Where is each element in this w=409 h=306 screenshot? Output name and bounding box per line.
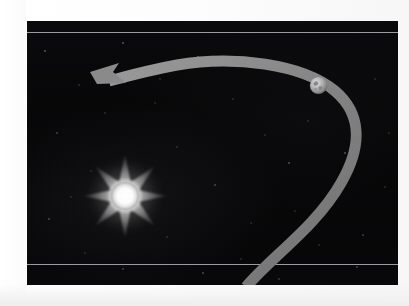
planet-body [310,77,327,94]
sun-core [111,182,139,210]
figure-stage [0,0,409,306]
page-left-shade [0,0,26,306]
page-bottom-shade [0,284,409,306]
planet [309,76,328,95]
sun [80,151,170,241]
space-panel [27,21,398,285]
